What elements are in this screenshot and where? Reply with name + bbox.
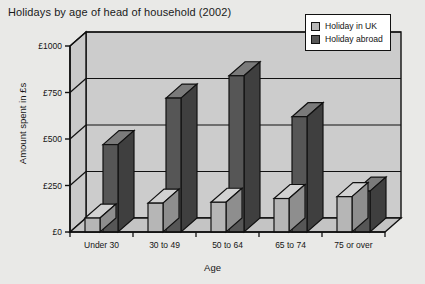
x-axis-tick-label: 65 to 74 bbox=[275, 240, 306, 250]
legend-swatch-abroad-icon bbox=[311, 35, 320, 44]
bar-chart: Holidays by age of head of household (20… bbox=[0, 0, 425, 284]
y-axis-tick-label: £0 bbox=[18, 227, 62, 237]
y-axis-tick-label: £500 bbox=[18, 134, 62, 144]
legend-item-abroad: Holiday abroad bbox=[311, 33, 383, 45]
legend-item-uk: Holiday in UK bbox=[311, 20, 383, 32]
y-axis-tick-label: £1000 bbox=[18, 41, 62, 51]
y-axis-tick-label: £750 bbox=[18, 88, 62, 98]
y-axis-tick-label: £250 bbox=[18, 181, 62, 191]
legend-swatch-uk-icon bbox=[311, 22, 320, 31]
chart-legend: Holiday in UK Holiday abroad bbox=[305, 14, 391, 51]
x-axis-tick-label: 75 or over bbox=[334, 240, 372, 250]
legend-label-abroad: Holiday abroad bbox=[325, 33, 383, 45]
legend-label-uk: Holiday in UK bbox=[325, 20, 377, 32]
y-axis-ticks: £0£250£500£750£1000 bbox=[14, 0, 62, 284]
x-axis-tick-label: 50 to 64 bbox=[212, 240, 243, 250]
x-axis-tick-label: 30 to 49 bbox=[149, 240, 180, 250]
x-axis-tick-label: Under 30 bbox=[84, 240, 119, 250]
